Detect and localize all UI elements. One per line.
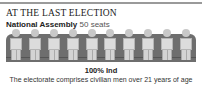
seat-count: 50 seats bbox=[80, 20, 110, 29]
seated-figure-icon bbox=[122, 29, 136, 61]
seated-figures bbox=[9, 29, 193, 61]
top-rule bbox=[0, 2, 202, 4]
result-label: 100% Ind bbox=[0, 66, 202, 75]
electorate-note: The electorate comprises civilian men ov… bbox=[0, 76, 202, 83]
section-heading: AT THE LAST ELECTION bbox=[6, 8, 117, 18]
seated-figure-icon bbox=[160, 29, 174, 61]
seated-figure-icon bbox=[47, 29, 61, 61]
seated-figure-icon bbox=[179, 29, 193, 61]
chamber-line: National Assembly 50 seats bbox=[6, 20, 110, 29]
seated-figure-icon bbox=[103, 29, 117, 61]
seated-figure-icon bbox=[66, 29, 80, 61]
seated-figure-icon bbox=[85, 29, 99, 61]
seated-figure-icon bbox=[9, 29, 23, 61]
seated-figure-icon bbox=[28, 29, 42, 61]
chamber-name: National Assembly bbox=[6, 20, 77, 29]
seated-figure-icon bbox=[141, 29, 155, 61]
